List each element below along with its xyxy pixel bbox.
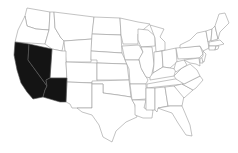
state-maine[interactable]: Maine <box>215 13 229 39</box>
state-wyoming[interactable]: Wyoming <box>64 39 92 62</box>
state-north-dakota[interactable]: North Dakota <box>92 17 121 35</box>
state-montana[interactable]: Montana <box>54 12 94 41</box>
state-ohio[interactable]: Ohio <box>162 48 177 68</box>
state-arizona[interactable]: Arizona <box>43 78 67 102</box>
state-new-mexico[interactable]: New Mexico <box>66 82 92 108</box>
state-layer: WashingtonOregonIdahoMontanaWyomingUtahC… <box>14 8 229 142</box>
state-south-dakota[interactable]: South Dakota <box>91 34 122 53</box>
us-map: WashingtonOregonIdahoMontanaWyomingUtahC… <box>0 0 238 153</box>
state-colorado[interactable]: Colorado <box>66 62 97 83</box>
state-mississippi[interactable]: Mississippi <box>146 88 155 110</box>
state-florida[interactable]: Florida <box>158 106 192 136</box>
state-utah[interactable]: Utah <box>50 49 67 78</box>
state-kansas[interactable]: Kansas <box>97 63 129 80</box>
state-rhode-island[interactable]: Rhode Island <box>215 46 219 50</box>
state-nebraska[interactable]: Nebraska <box>91 51 127 64</box>
state-arkansas[interactable]: Arkansas <box>130 84 146 100</box>
